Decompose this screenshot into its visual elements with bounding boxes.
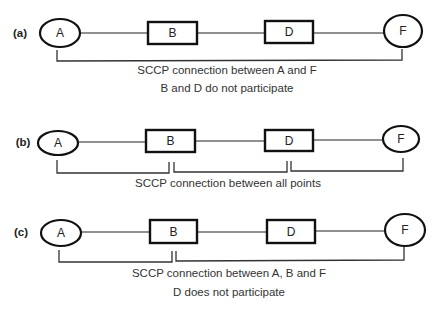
connection-bracket-a-b	[59, 250, 172, 262]
panel-label: (a)	[13, 27, 27, 39]
panel-b: (b) A B D F SCCP connection between all …	[16, 126, 419, 189]
node-a: A	[41, 220, 81, 246]
node-d: D	[265, 130, 313, 151]
node-d-label: D	[287, 225, 296, 239]
node-b: B	[146, 130, 195, 152]
node-f-label: F	[397, 132, 404, 146]
connection-bracket-b-f	[176, 247, 404, 261]
caption-line-1: SCCP connection between A, B and F	[132, 267, 326, 279]
node-d-label: D	[285, 25, 294, 39]
node-b: B	[150, 220, 197, 243]
node-f: F	[383, 126, 419, 152]
panel-c: (c) A B D F SCCP connection between A, B…	[14, 214, 425, 298]
node-f-label: F	[401, 223, 408, 237]
node-b: B	[148, 22, 197, 44]
node-a-label: A	[56, 26, 64, 40]
node-d: D	[267, 220, 315, 243]
node-a-label: A	[54, 136, 62, 150]
sccp-connection-diagram: (a) A B D F SCCP connection between A an…	[0, 0, 437, 311]
node-a: A	[38, 131, 78, 155]
connection-bracket-a-b	[57, 160, 169, 173]
panel-a: (a) A B D F SCCP connection between A an…	[13, 15, 422, 94]
node-f-label: F	[399, 24, 406, 38]
panel-label: (b)	[16, 136, 31, 148]
caption-line-2: D does not participate	[173, 286, 285, 298]
connection-bracket-a-f	[57, 49, 402, 61]
node-f: F	[385, 214, 425, 246]
node-b-label: B	[169, 225, 177, 239]
node-b-label: B	[168, 26, 176, 40]
connection-bracket-b-d	[174, 161, 287, 172]
connection-bracket-d-f	[291, 158, 403, 171]
panel-label: (c)	[14, 226, 28, 238]
node-a: A	[40, 19, 80, 47]
caption-line-1: SCCP connection between all points	[135, 177, 321, 189]
node-d: D	[265, 21, 313, 43]
caption-line-1: SCCP connection between A and F	[137, 64, 316, 76]
node-b-label: B	[166, 134, 174, 148]
caption-line-2: B and D do not participate	[161, 82, 294, 94]
node-a-label: A	[57, 226, 65, 240]
node-f: F	[384, 15, 422, 47]
node-d-label: D	[285, 134, 294, 148]
